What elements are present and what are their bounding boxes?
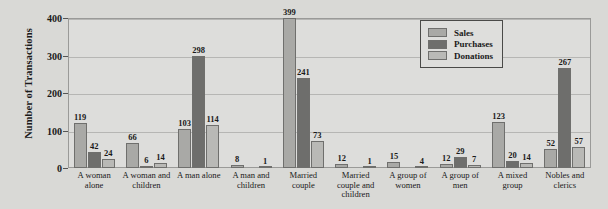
bar-groups: 1194224666141032981148139924173121154122… [68, 18, 591, 168]
bar-slot: 57 [572, 18, 585, 168]
legend-swatch [428, 51, 447, 60]
bar-value-label: 267 [558, 58, 571, 67]
legend-label: Donations [454, 51, 493, 61]
legend-item: Sales [428, 28, 493, 38]
bar-slot: 14 [154, 18, 167, 168]
x-axis-labels: A woman aloneA woman and childrenA man a… [68, 171, 591, 200]
bar [415, 166, 428, 168]
x-tick-label: A man and children [225, 171, 277, 200]
bar [259, 166, 272, 168]
bar-slot: 8 [231, 18, 244, 168]
bar [454, 157, 467, 168]
y-axis-title: Number of Transactions [23, 4, 34, 164]
legend: SalesPurchasesDonations [420, 20, 503, 68]
bar [558, 68, 571, 168]
bar-slot: 241 [297, 18, 310, 168]
y-tick-mark [63, 168, 68, 169]
bar [74, 123, 87, 168]
y-tick-label: 400 [30, 13, 62, 24]
legend-label: Purchases [454, 39, 493, 49]
bar-value-label: 103 [178, 119, 191, 128]
bar-value-label: 12 [442, 154, 451, 163]
bar-value-label: 114 [207, 115, 219, 124]
y-tick-label: 100 [30, 125, 62, 136]
bar-group: 81 [225, 18, 277, 168]
bar [192, 56, 205, 168]
x-tick-label: A man alone [173, 171, 225, 200]
legend-item: Purchases [428, 39, 493, 49]
bar [178, 129, 191, 168]
bar-value-label: 29 [456, 147, 465, 156]
bar-slot: 1 [363, 18, 376, 168]
legend-swatch [428, 28, 447, 37]
x-tick-label: A group of women [382, 171, 434, 200]
y-tick-label: 200 [30, 88, 62, 99]
bar [506, 161, 519, 169]
bar-value-label: 6 [144, 156, 148, 165]
bar-slot: 42 [88, 18, 101, 168]
bar-slot: 15 [387, 18, 400, 168]
bar [572, 147, 585, 168]
bar-value-label: 12 [337, 154, 346, 163]
bar [387, 162, 400, 168]
bar [283, 18, 296, 168]
bar-slot: 298 [192, 18, 205, 168]
bar-slot [245, 18, 258, 168]
x-tick-label: A woman alone [68, 171, 120, 200]
bar-group: 121 [329, 18, 381, 168]
bar [363, 166, 376, 168]
bar [335, 164, 348, 169]
bar-value-label: 1 [263, 157, 267, 166]
bar-slot: 267 [558, 18, 571, 168]
bar [520, 163, 533, 168]
bar-slot: 73 [311, 18, 324, 168]
bar [468, 165, 481, 168]
bar-slot: 6 [140, 18, 153, 168]
bar-value-label: 399 [283, 8, 296, 17]
x-tick-label: Married couple and children [329, 171, 381, 200]
bar-group: 103298114 [173, 18, 225, 168]
bar [140, 166, 153, 168]
legend-item: Donations [428, 51, 493, 61]
legend-label: Sales [454, 28, 474, 38]
bar-slot: 52 [544, 18, 557, 168]
bar-value-label: 66 [128, 133, 137, 142]
bar [88, 152, 101, 168]
bar-slot: 14 [520, 18, 533, 168]
bar-value-label: 119 [74, 113, 86, 122]
bar-value-label: 14 [522, 153, 531, 162]
bar-value-label: 241 [297, 68, 310, 77]
bar-slot: 66 [126, 18, 139, 168]
x-tick-label: A woman and children [120, 171, 172, 200]
bar [102, 159, 115, 168]
bar-group: 5226757 [539, 18, 591, 168]
bar-slot: 114 [206, 18, 219, 168]
bar-slot: 1 [259, 18, 272, 168]
bar [126, 143, 139, 168]
y-tick-label: 300 [30, 50, 62, 61]
bar-value-label: 15 [390, 152, 399, 161]
bar-slot: 20 [506, 18, 519, 168]
bar [440, 164, 453, 169]
x-tick-label: A mixed group [486, 171, 538, 200]
bar-value-label: 4 [420, 157, 424, 166]
bar-slot: 119 [74, 18, 87, 168]
bar [231, 165, 244, 168]
bar-value-label: 123 [492, 112, 505, 121]
bar-value-label: 1 [368, 157, 372, 166]
x-tick-label: A group of men [434, 171, 486, 200]
bar-slot: 103 [178, 18, 191, 168]
bar [311, 141, 324, 168]
bar-group: 66614 [120, 18, 172, 168]
bar [297, 78, 310, 168]
bar-value-label: 7 [472, 155, 476, 164]
bar [206, 125, 219, 168]
bar [492, 122, 505, 168]
bar-slot [401, 18, 414, 168]
bar-slot: 24 [102, 18, 115, 168]
x-tick-label: Nobles and clerics [539, 171, 591, 200]
bar [544, 149, 557, 169]
bar-value-label: 24 [104, 149, 113, 158]
bar-value-label: 52 [547, 139, 556, 148]
bar-slot [349, 18, 362, 168]
